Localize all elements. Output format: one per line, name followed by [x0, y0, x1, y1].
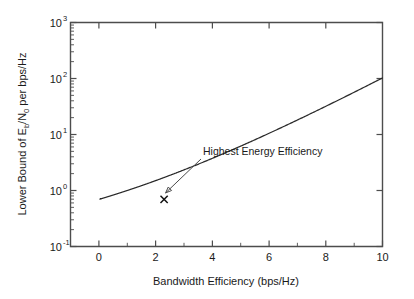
x-tick-label-10: 10: [376, 251, 388, 263]
y-tick-label-1-base: 10: [50, 185, 62, 197]
x-tick-label-2: 2: [153, 251, 159, 263]
y-axis-label-post: per bps/Hz: [16, 52, 28, 108]
y-tick-label-1000-base: 10: [50, 17, 62, 29]
y-tick-label-0.1-exp: -1: [63, 238, 70, 247]
y-tick-label-100-exp: 2: [63, 70, 67, 79]
plot-axes: [71, 23, 383, 247]
svg-text:Lower Bound of Eb/N0 per bps/H: Lower Bound of Eb/N0 per bps/Hz: [16, 52, 31, 215]
y-axis-major-ticks: [71, 23, 383, 247]
x-tick-label-6: 6: [266, 251, 272, 263]
y-axis-label-pre: Lower Bound of E: [16, 128, 28, 215]
y-tick-label-10-base: 10: [50, 129, 62, 141]
annotation-label: Highest Energy Efficiency: [203, 145, 323, 157]
chart-canvas: 10 3 10 2 10 1 10 0 10 -1 0 2 4 6 8 10 B…: [0, 0, 414, 299]
y-tick-label-10-exp: 1: [63, 126, 67, 135]
shannon-bound-curve: [100, 78, 383, 199]
y-axis-label-mid: /N: [16, 113, 28, 124]
x-tick-label-4: 4: [209, 251, 215, 263]
x-axis-label: Bandwidth Efficiency (bps/Hz): [153, 275, 299, 287]
y-tick-label-1-exp: 0: [63, 182, 67, 191]
min-point-marker: [161, 196, 168, 203]
x-axis-tick-labels: 0 2 4 6 8 10: [96, 251, 389, 263]
x-tick-label-8: 8: [323, 251, 329, 263]
plot-frame: [71, 23, 383, 247]
y-tick-label-1000-exp: 3: [63, 14, 67, 23]
y-tick-label-100-base: 10: [50, 73, 62, 85]
chart-figure: 10 3 10 2 10 1 10 0 10 -1 0 2 4 6 8 10 B…: [0, 0, 414, 299]
y-axis-label: Lower Bound of Eb/N0 per bps/Hz: [16, 52, 31, 215]
annotation-arrow-line: [166, 159, 201, 193]
y-axis-tick-labels: 10 3 10 2 10 1 10 0 10 -1: [50, 14, 70, 253]
x-tick-label-0: 0: [96, 251, 102, 263]
x-axis-ticks: [99, 23, 383, 247]
y-tick-label-0.1-base: 10: [50, 241, 62, 253]
